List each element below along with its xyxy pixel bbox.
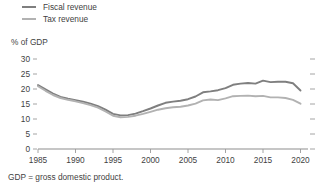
x-tick-label: 1985 [29,155,48,165]
x-tick-label: 2005 [179,155,198,165]
y-tick-label: 0 [25,144,30,154]
y-tick-label: 20 [21,84,31,94]
series-line-fiscal-revenue [38,81,301,116]
y-tick-label: 10 [21,114,31,124]
x-axis-tick-labels: 19851990199520002005201020152020 [29,155,310,165]
chart-footnote: GDP = gross domestic product. [8,172,123,182]
y-tick-label: 5 [25,129,30,139]
fiscal-revenue-chart: Fiscal revenue Tax revenue % of GDP 0510… [0,0,327,188]
y-tick-label: 15 [21,99,31,109]
y-axis-tick-labels: 051015202530 [21,54,31,154]
y-tick-label: 25 [21,69,31,79]
y-axis-ticks [33,59,37,149]
x-tick-label: 1990 [66,155,85,165]
x-tick-label: 2015 [254,155,273,165]
x-tick-label: 2010 [216,155,235,165]
x-tick-label: 1995 [104,155,123,165]
y-axis-ticks-right [310,59,315,149]
x-tick-label: 2000 [141,155,160,165]
x-axis-ticks [38,149,301,153]
x-tick-label: 2020 [291,155,310,165]
chart-plot-area: 051015202530 198519901995200020052010201… [0,0,327,188]
chart-series-group [38,81,301,118]
y-tick-label: 30 [21,54,31,64]
